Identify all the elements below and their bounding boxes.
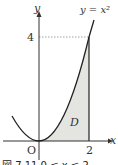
region-d [39, 37, 89, 141]
y-axis-label: y [34, 3, 40, 14]
x-axis-label: x [110, 135, 116, 146]
origin-label: O [27, 145, 36, 156]
region-label: D [70, 117, 79, 128]
curve-label: y = x² [80, 5, 110, 15]
x-tick-label: 2 [86, 145, 93, 156]
graph [0, 0, 118, 165]
y-tick-label: 4 [27, 32, 34, 43]
figure-caption: 図 7.11 0 ≦ x ≦ 2 [2, 157, 89, 165]
